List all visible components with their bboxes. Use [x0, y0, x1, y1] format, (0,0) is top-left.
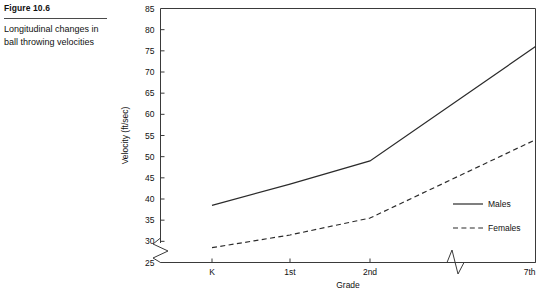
y-tick-label: 60 [145, 109, 155, 119]
y-tick-label: 30 [145, 236, 155, 246]
x-tick-label: 1st [284, 267, 296, 277]
x-tick-label: 2nd [363, 267, 377, 277]
series-line-males [212, 47, 536, 206]
x-tick-label: 7th [524, 267, 536, 277]
y-tick-label: 40 [145, 194, 155, 204]
series-line-females [212, 140, 536, 248]
axis-break-marks [153, 238, 464, 274]
x-axis-ticks: K1st2nd7th [209, 259, 536, 277]
chart-legend: MalesFemales [453, 199, 521, 233]
legend-label-males: Males [488, 199, 511, 209]
plot-frame [161, 9, 536, 263]
data-series-layer [212, 47, 536, 248]
x-tick-label: K [209, 267, 215, 277]
y-tick-label: 75 [145, 46, 155, 56]
y-tick-label: 50 [145, 152, 155, 162]
line-chart: 25303540455055606570758085 K1st2nd7th Gr… [0, 0, 547, 294]
y-tick-label: 35 [145, 215, 155, 225]
y-axis-title: Velocity (ft/sec) [120, 107, 130, 165]
y-tick-label: 45 [145, 173, 155, 183]
y-tick-label: 70 [145, 67, 155, 77]
y-tick-label: 80 [145, 25, 155, 35]
y-axis-ticks: 25303540455055606570758085 [145, 4, 164, 268]
y-tick-label: 25 [145, 258, 155, 268]
figure-root: Figure 10.6 Longitudinal changes in ball… [0, 0, 547, 294]
y-tick-label: 55 [145, 131, 155, 141]
y-tick-label: 85 [145, 4, 155, 14]
x-axis-title: Grade [336, 280, 360, 290]
legend-label-females: Females [488, 223, 521, 233]
y-tick-label: 65 [145, 88, 155, 98]
